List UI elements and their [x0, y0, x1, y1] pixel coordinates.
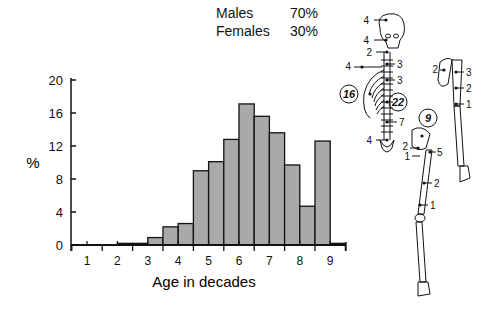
- skeleton-diagram: 4 4 2 3 3 7 4 4 16 22 9 2 1 5 2 1 2 3 2 …: [330, 0, 497, 310]
- histogram-bar: [254, 116, 269, 245]
- lesion-dots: [360, 18, 457, 206]
- histogram-bar: [285, 165, 300, 245]
- skull-icon: [379, 14, 405, 48]
- histogram-bar: [163, 227, 178, 245]
- x-tick-label: 7: [266, 254, 273, 268]
- x-tick-label: 5: [205, 254, 212, 268]
- x-tick-label: 1: [84, 254, 91, 268]
- scapula-label: 2: [432, 64, 438, 75]
- x-axis-label: Age in decades: [152, 273, 255, 290]
- femur-lower-label: 1: [430, 200, 436, 211]
- x-tick-label: 6: [236, 254, 243, 268]
- y-tick-label: 0: [56, 238, 63, 253]
- y-axis-label: %: [26, 154, 39, 171]
- y-tick-label: 16: [49, 106, 63, 121]
- ribs-label: 16: [343, 88, 356, 100]
- histogram-bar: [239, 104, 254, 245]
- x-tick-label: 4: [175, 254, 182, 268]
- histogram-bar: [209, 162, 224, 245]
- y-tick-label: 20: [49, 73, 63, 88]
- age-histogram: 048121620123456789 % Age in decades: [0, 0, 360, 310]
- cervical-label: 3: [397, 59, 403, 70]
- y-tick-label: 4: [56, 205, 63, 220]
- vertebra-label: 22: [391, 96, 404, 108]
- jaw-label: 2: [366, 47, 372, 58]
- ribcage-icon: [364, 70, 384, 118]
- ischium-label: 1: [404, 151, 410, 162]
- histogram-bar: [193, 171, 208, 245]
- x-tick-label: 8: [296, 254, 303, 268]
- pelvis-label: 9: [425, 112, 432, 124]
- humerus-upper-label: 3: [466, 67, 472, 78]
- skull-label: 4: [363, 15, 369, 26]
- y-tick-label: 12: [49, 139, 63, 154]
- histogram-bar: [224, 139, 239, 245]
- lumbar-label: 7: [399, 117, 405, 128]
- femoral-head-label: 5: [437, 147, 443, 158]
- histogram-bar: [148, 238, 163, 245]
- skeleton-labels: 4 4 2 3 3 7 4 4 16 22 9 2 1 5 2 1 2 3 2 …: [343, 15, 472, 211]
- histogram-bar: [315, 141, 330, 245]
- histogram-bar: [269, 133, 284, 245]
- humerus-lower-label: 1: [466, 99, 472, 110]
- histogram-bar: [300, 206, 315, 245]
- sacrum-label: 4: [366, 135, 372, 146]
- x-tick-label: 2: [114, 254, 121, 268]
- histogram-bars: [117, 104, 345, 245]
- y-tick-label: 8: [56, 172, 63, 187]
- thoracic-label: 3: [397, 75, 403, 86]
- face-label: 4: [363, 35, 369, 46]
- clavicle-label: 4: [345, 61, 351, 72]
- histogram-bar: [178, 224, 193, 245]
- humerus-mid-label: 2: [466, 83, 472, 94]
- x-tick-label: 3: [144, 254, 151, 268]
- femur-upper-label: 2: [434, 178, 440, 189]
